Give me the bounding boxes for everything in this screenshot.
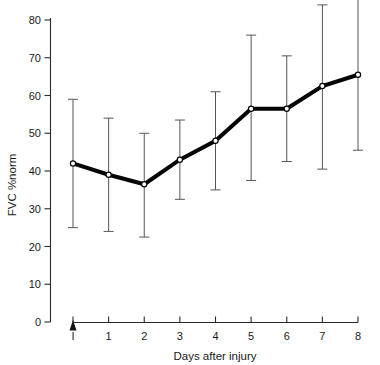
y-tick-label: 20 bbox=[29, 241, 41, 253]
y-axis-title: FVC %norm bbox=[6, 154, 18, 217]
y-tick-label: 0 bbox=[35, 316, 41, 328]
data-point-marker bbox=[177, 157, 182, 162]
data-point-marker bbox=[142, 182, 147, 187]
x-tick-label: 8 bbox=[355, 330, 361, 342]
fvc-line-chart: 01020304050607080 FVC %norm I12345678 Da… bbox=[0, 0, 380, 365]
y-tick-label: 10 bbox=[29, 278, 41, 290]
y-tick-label: 30 bbox=[29, 203, 41, 215]
data-point-marker bbox=[106, 172, 111, 177]
y-tick-label: 40 bbox=[29, 165, 41, 177]
data-point-marker bbox=[70, 161, 75, 166]
x-tick-label: 6 bbox=[284, 330, 290, 342]
x-tick-label: 7 bbox=[319, 330, 325, 342]
y-tick-label: 50 bbox=[29, 127, 41, 139]
x-tick-label: 1 bbox=[106, 330, 112, 342]
x-tick-label: 2 bbox=[141, 330, 147, 342]
data-point-marker bbox=[355, 72, 360, 77]
data-point-marker bbox=[213, 138, 218, 143]
x-tick-label: 5 bbox=[248, 330, 254, 342]
y-tick-label: 60 bbox=[29, 90, 41, 102]
data-point-marker bbox=[249, 106, 254, 111]
data-point-marker bbox=[320, 83, 325, 88]
figure-container: 01020304050607080 FVC %norm I12345678 Da… bbox=[0, 0, 380, 365]
y-tick-label: 70 bbox=[29, 52, 41, 64]
y-tick-label: 80 bbox=[29, 14, 41, 26]
x-axis-title: Days after injury bbox=[173, 350, 256, 362]
data-point-marker bbox=[284, 106, 289, 111]
y-tick-labels: 01020304050607080 bbox=[29, 14, 41, 328]
x-tick-label: 4 bbox=[212, 330, 218, 342]
x-tick-label: I bbox=[71, 330, 74, 342]
chart-background bbox=[0, 0, 380, 365]
x-tick-label: 3 bbox=[177, 330, 183, 342]
